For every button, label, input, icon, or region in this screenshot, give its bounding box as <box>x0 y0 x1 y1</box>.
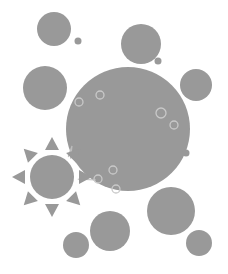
sun-ray <box>12 170 25 184</box>
bottom-left-circle <box>63 232 89 258</box>
dot-top-left <box>75 38 82 45</box>
top-left-circle <box>37 12 71 46</box>
lower-right-circle <box>147 187 195 235</box>
sun-ray <box>45 137 59 150</box>
top-center-circle <box>121 24 161 64</box>
bottom-center-circle <box>90 211 130 251</box>
illustration-canvas <box>0 0 228 274</box>
big-circle <box>66 67 190 191</box>
left-circle <box>23 66 67 110</box>
big-planet-circle <box>66 67 190 191</box>
bubbles-illustration <box>0 0 228 274</box>
right-circle <box>180 69 212 101</box>
sun-ray <box>45 204 59 217</box>
sun-icon <box>12 137 92 217</box>
sun-core <box>30 155 74 199</box>
dot-top-center <box>155 58 162 65</box>
bottom-right-circle <box>186 230 212 256</box>
dot-right-edge <box>183 150 190 157</box>
